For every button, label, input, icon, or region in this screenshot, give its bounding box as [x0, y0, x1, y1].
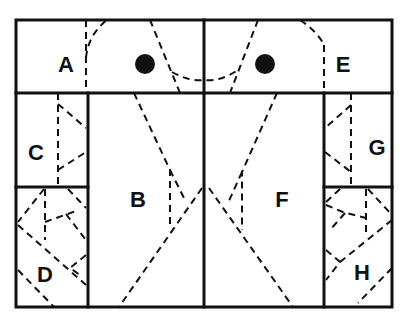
region-label-c: C [28, 140, 44, 165]
dash-d-1 [18, 189, 44, 222]
dash-d-3 [45, 211, 76, 222]
dash-c-upper [58, 104, 86, 128]
region-label-f: F [275, 187, 288, 212]
dash-h-1 [326, 189, 340, 202]
region-label-b: B [130, 187, 146, 212]
region-label-h: H [354, 260, 370, 285]
dash-a-curve [86, 20, 107, 58]
dash-e-slope [230, 20, 258, 93]
dash-h-2 [326, 205, 366, 218]
right-dot [255, 54, 275, 74]
dash-f-bend [242, 93, 277, 230]
dash-d-4 [68, 189, 86, 208]
dash-h-7 [326, 250, 340, 280]
region-label-e: E [336, 52, 351, 77]
dash-f-short [228, 172, 242, 203]
dash-b-short [170, 170, 185, 200]
dash-g-upper [325, 105, 351, 128]
dash-a-slope [150, 20, 180, 93]
dash-h-5 [330, 213, 345, 230]
region-label-g: G [368, 135, 385, 160]
dash-g-lower [325, 152, 351, 172]
dash-c-lower [58, 152, 86, 170]
dash-e-curve [300, 20, 324, 45]
dash-d-5 [66, 214, 86, 240]
dash-d-7 [70, 255, 86, 275]
dash-h-4 [368, 189, 392, 215]
left-dot [135, 54, 155, 74]
region-label-d: D [37, 262, 53, 287]
diagram-canvas: A B C D E F G H [0, 0, 408, 333]
pattern-diagram: A B C D E F G H [0, 0, 408, 333]
region-label-a: A [58, 52, 74, 77]
